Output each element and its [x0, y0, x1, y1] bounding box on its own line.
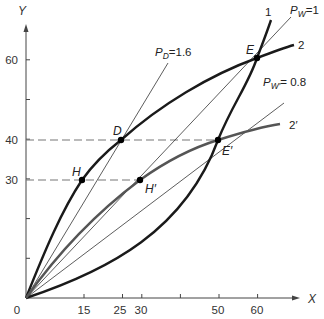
y-axis-label: Y — [18, 4, 27, 18]
x-tick-label-25: 25 — [114, 304, 127, 316]
guide-lines — [26, 140, 218, 180]
curves — [26, 20, 294, 298]
x-tick-label-60: 60 — [251, 304, 264, 316]
ray-pw2-label: PW′= 0.8 — [263, 76, 306, 91]
curve-2 — [26, 45, 294, 298]
curve-1-label: 1 — [265, 6, 271, 18]
origin-label: 0 — [14, 304, 20, 316]
ray-pw1-label: PW=1 — [290, 4, 319, 19]
point-D-label: D — [113, 124, 122, 138]
y-axis-arrow-icon — [24, 24, 29, 32]
x-tick-label-15: 15 — [78, 304, 91, 316]
point-H-prime-label: H′ — [145, 182, 157, 196]
x-axis-label: X — [307, 292, 317, 306]
production-possibility-diagram: 15 25 30 50 60 0 30 40 60 Y X 1 2 2′ PW=… — [0, 0, 324, 319]
curve-1 — [26, 20, 271, 298]
x-tick-label-30: 30 — [135, 304, 148, 316]
y-tick-label-60: 60 — [5, 54, 18, 66]
point-H-label: H — [72, 165, 81, 179]
curve-2-prime-label: 2′ — [289, 119, 298, 131]
y-tick-label-40: 40 — [5, 134, 18, 146]
curve-2-label: 2 — [298, 39, 304, 51]
point-E — [254, 55, 260, 61]
points — [79, 55, 260, 183]
ray-pd — [26, 63, 168, 298]
point-E-prime-label: E′ — [222, 144, 233, 158]
point-E-label: E — [246, 43, 255, 57]
y-tick-label-30: 30 — [5, 174, 18, 186]
point-E-prime — [215, 137, 221, 143]
point-H-prime — [137, 177, 143, 183]
x-axis-arrow-icon — [292, 296, 300, 301]
ray-pd-label: PD=1.6 — [155, 46, 192, 61]
x-tick-label-50: 50 — [212, 304, 225, 316]
